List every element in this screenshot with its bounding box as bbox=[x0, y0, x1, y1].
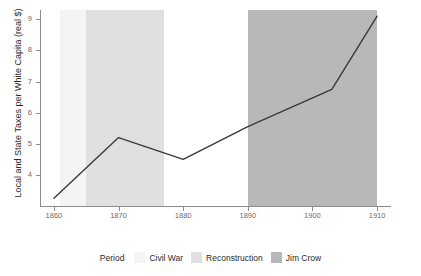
legend-item-jim-crow[interactable]: Jim Crow bbox=[271, 252, 321, 263]
y-axis-line bbox=[40, 10, 41, 207]
x-tick-label-1910: 1910 bbox=[362, 211, 392, 220]
legend-item-civil-war[interactable]: Civil War bbox=[134, 252, 183, 263]
chart-figure: 456789 186018701880189019001910 Local an… bbox=[0, 0, 421, 276]
y-tick-5 bbox=[36, 144, 40, 145]
chart-legend: Period Civil War Reconstruction Jim Crow bbox=[0, 252, 421, 263]
legend-item-reconstruction[interactable]: Reconstruction bbox=[191, 252, 263, 263]
y-tick-7 bbox=[36, 82, 40, 83]
legend-swatch-civil-war bbox=[134, 252, 145, 263]
legend-label-reconstruction: Reconstruction bbox=[206, 253, 263, 263]
legend-label-civil-war: Civil War bbox=[149, 253, 183, 263]
x-axis-line bbox=[40, 206, 391, 207]
legend-title: Period bbox=[100, 253, 125, 263]
y-tick-6 bbox=[36, 113, 40, 114]
legend-label-jim-crow: Jim Crow bbox=[286, 253, 321, 263]
x-tick-label-1880: 1880 bbox=[168, 211, 198, 220]
series-line-taxes bbox=[54, 16, 377, 198]
y-tick-4 bbox=[36, 175, 40, 176]
plot-area bbox=[41, 10, 390, 206]
legend-swatch-reconstruction bbox=[191, 252, 202, 263]
y-tick-9 bbox=[36, 19, 40, 20]
x-tick-label-1870: 1870 bbox=[104, 211, 134, 220]
y-axis-title: Local and State Taxes per White Capita (… bbox=[13, 3, 23, 203]
x-tick-label-1890: 1890 bbox=[233, 211, 263, 220]
series-line-layer bbox=[41, 10, 390, 206]
x-tick-label-1900: 1900 bbox=[297, 211, 327, 220]
x-tick-label-1860: 1860 bbox=[39, 211, 69, 220]
legend-swatch-jim-crow bbox=[271, 252, 282, 263]
y-tick-8 bbox=[36, 50, 40, 51]
